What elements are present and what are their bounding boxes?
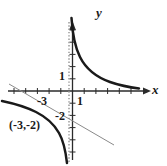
x-tick-label-1: 1: [77, 95, 83, 107]
point-coordinate-label: (-3,-2): [9, 119, 40, 131]
y-tick-label-1: 1: [59, 70, 65, 82]
x-tick-label-neg3: -3: [37, 95, 47, 107]
y-tick-label-neg2: -2: [55, 110, 65, 122]
math-figure: y x 1 1 -3 -2 (-3,-2): [0, 0, 167, 166]
x-axis-label: x: [152, 83, 159, 96]
y-axis-label: y: [96, 6, 102, 19]
graph-canvas: [0, 0, 167, 166]
curve-right-branch: [72, 18, 140, 88]
